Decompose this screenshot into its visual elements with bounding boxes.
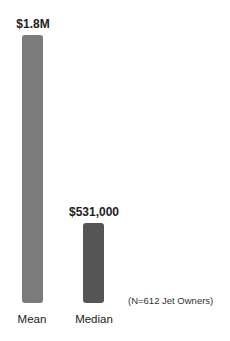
sample-size-note: (N=612 Jet Owners) (128, 295, 213, 306)
category-label-median: Median (72, 313, 116, 325)
value-label-median: $531,000 (62, 205, 126, 219)
bar-mean (22, 35, 43, 303)
value-label-mean: $1.8M (12, 17, 54, 31)
category-label-mean: Mean (10, 313, 54, 325)
bar-median (83, 223, 104, 303)
